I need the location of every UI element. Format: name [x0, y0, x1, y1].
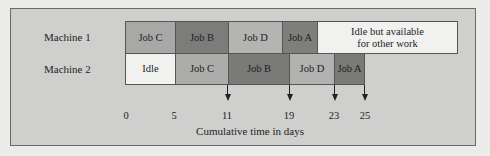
- machine-1-idle-available: Idle but available for other work: [317, 21, 458, 54]
- arrow-head-23-icon: [332, 94, 338, 101]
- row-label-machine-2: Machine 2: [44, 63, 104, 75]
- row-label-machine-1: Machine 1: [44, 31, 104, 43]
- tick-25: 25: [360, 110, 371, 121]
- tick-23: 23: [329, 110, 340, 121]
- machine-2-job-a: Job A: [334, 53, 365, 85]
- machine-2-job-d: Job D: [289, 53, 335, 85]
- tick-5: 5: [171, 110, 176, 121]
- tick-0: 0: [123, 110, 128, 121]
- machine-1-job-b: Job B: [175, 21, 229, 54]
- machine-1-job-c: Job C: [125, 21, 176, 54]
- arrow-head-11-icon: [225, 94, 231, 101]
- arrow-head-25-icon: [362, 94, 368, 101]
- axis-label: Cumulative time in days: [0, 125, 490, 137]
- arrow-head-19-icon: [287, 94, 293, 101]
- machine-2-idle: Idle: [125, 53, 176, 85]
- tick-19: 19: [284, 110, 295, 121]
- machine-1-job-a: Job A: [282, 21, 318, 54]
- machine-2-job-c: Job C: [175, 53, 229, 85]
- machine-1-job-d: Job D: [228, 21, 283, 54]
- machine-2-job-b: Job B: [228, 53, 290, 85]
- tick-11: 11: [222, 110, 232, 121]
